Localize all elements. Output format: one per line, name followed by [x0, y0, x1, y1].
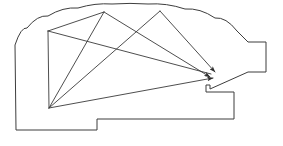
line-diagram-svg — [0, 0, 283, 146]
ray-left-vertex-to-top-left — [48, 12, 104, 31]
ray-top-right-to-bottom — [49, 11, 160, 108]
ray-left-vertex-to-bottom — [48, 31, 49, 108]
enclosure-outline-group — [15, 3, 266, 130]
ray-arrows-group — [49, 11, 215, 108]
ray-top-left-to-target — [104, 12, 210, 77]
figure-container — [0, 0, 283, 146]
ray-bottom-to-target — [49, 78, 213, 108]
enclosure-outline — [15, 3, 266, 130]
ray-top-left-to-bottom — [49, 12, 104, 108]
